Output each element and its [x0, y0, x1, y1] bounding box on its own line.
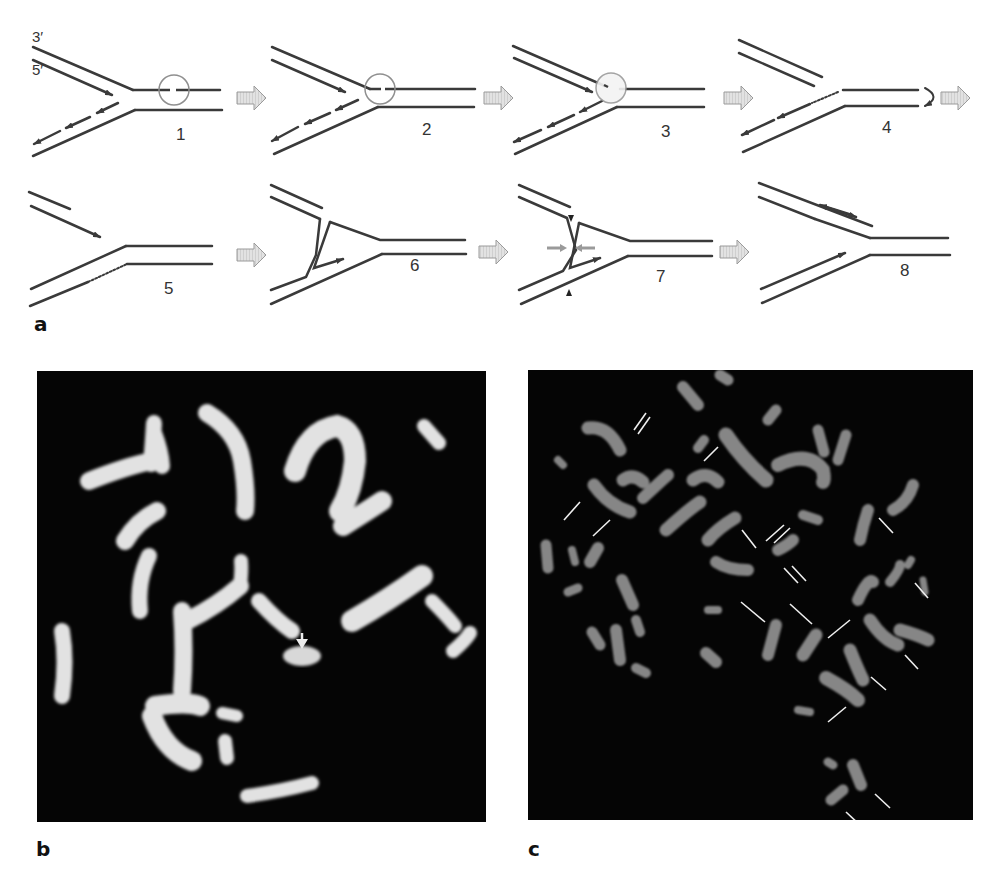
step-number-2: 2 [422, 120, 431, 139]
step-8-fork [759, 183, 950, 303]
step-number-7: 7 [656, 267, 665, 286]
panel-a: 3′ 5′ 1 2 3 4 5 6 7 8 [0, 0, 1002, 340]
step-number-8: 8 [900, 261, 909, 280]
panel-b-label: b [36, 837, 50, 861]
chromosome-spread-b [37, 371, 486, 822]
cleavage-marker-bottom [566, 289, 572, 296]
replication-fork-diagram: 3′ 5′ 1 2 3 4 5 6 7 8 [0, 0, 1002, 340]
step-1-fork [33, 47, 222, 156]
step-3-highlight-circle [596, 73, 626, 103]
chromosome-spread-c [528, 370, 973, 820]
strand-5prime-label: 5′ [32, 61, 43, 78]
panel-b-micrograph [37, 371, 486, 822]
panel-a-label: a [34, 312, 48, 336]
panel-c-label: c [528, 837, 540, 861]
panel-c-micrograph [528, 370, 973, 820]
step-4-fork [739, 40, 934, 152]
strand-3prime-label: 3′ [32, 28, 43, 45]
step-6-fork [271, 185, 466, 304]
step-7-fork [519, 185, 712, 304]
step-number-4: 4 [882, 118, 891, 137]
step-number-6: 6 [410, 256, 419, 275]
step-number-1: 1 [176, 125, 185, 144]
step-number-5: 5 [164, 279, 173, 298]
step-number-3: 3 [661, 122, 670, 141]
step-2-fork [272, 47, 475, 154]
step-5-fork [29, 192, 212, 306]
